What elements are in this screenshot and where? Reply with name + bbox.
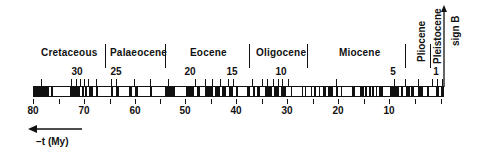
epoch-label: Cretaceous	[41, 47, 97, 58]
normal-polarity-block	[165, 87, 175, 96]
top-tick	[267, 79, 268, 86]
epoch-separator	[249, 44, 250, 68]
top-tick	[205, 79, 206, 86]
epoch-separator	[307, 44, 308, 68]
top-tick	[96, 79, 97, 86]
top-tick	[76, 79, 77, 86]
normal-polarity-block	[205, 87, 213, 96]
normal-polarity-block	[129, 87, 132, 96]
normal-polarity-block	[436, 87, 439, 96]
normal-polarity-block	[85, 87, 87, 96]
top-tick	[220, 79, 221, 86]
top-tick	[71, 79, 72, 86]
axis-tick	[59, 99, 60, 104]
normal-polarity-block	[427, 87, 429, 96]
chron-number: 5	[390, 66, 396, 77]
normal-polarity-block	[406, 87, 410, 96]
chron-number: 1	[433, 66, 439, 77]
normal-polarity-block	[186, 87, 194, 96]
axis-tick	[415, 99, 416, 104]
epoch-separator	[405, 44, 406, 68]
top-tick	[41, 79, 42, 86]
axis-tick	[110, 99, 111, 104]
chron-number: 20	[184, 66, 195, 77]
axis-tick	[313, 99, 314, 104]
normal-polarity-block	[379, 87, 383, 96]
axis-tick	[364, 99, 365, 104]
axis-label: 10	[383, 105, 394, 116]
normal-polarity-block	[82, 87, 84, 96]
normal-polarity-block	[197, 87, 200, 96]
normal-polarity-block	[305, 87, 306, 96]
normal-polarity-block	[360, 87, 364, 96]
axis-tick	[160, 99, 161, 104]
normal-polarity-block	[89, 87, 93, 96]
axis-tick	[262, 99, 263, 104]
top-tick	[134, 79, 135, 86]
epoch-label: Eocene	[190, 47, 227, 58]
chron-number: 10	[275, 66, 286, 77]
normal-polarity-block	[323, 87, 326, 96]
top-tick	[84, 79, 85, 86]
top-tick	[262, 79, 263, 86]
normal-polarity-block	[352, 87, 355, 96]
top-tick	[228, 79, 229, 86]
normal-polarity-block	[111, 87, 113, 96]
axis-label: 70	[78, 105, 89, 116]
top-tick	[233, 79, 234, 86]
normal-polarity-block	[372, 87, 374, 96]
normal-polarity-block	[229, 87, 233, 96]
axis-label: 40	[230, 105, 241, 116]
normal-polarity-block	[116, 87, 119, 96]
axis-label: 80	[27, 105, 38, 116]
top-tick	[212, 79, 213, 86]
top-tick	[111, 79, 112, 86]
axis-label: 60	[129, 105, 140, 116]
chron-number: 30	[71, 66, 82, 77]
normal-polarity-block	[418, 87, 423, 96]
normal-polarity-block	[390, 87, 399, 96]
top-tick	[116, 79, 117, 86]
chron-number: 15	[226, 66, 237, 77]
chron-number: 25	[110, 66, 121, 77]
top-tick	[432, 79, 433, 86]
axis-tick	[236, 99, 237, 104]
top-tick	[394, 79, 395, 86]
normal-polarity-block	[281, 87, 286, 96]
epoch-label: Miocene	[339, 47, 380, 58]
axis-label: 30	[281, 105, 292, 116]
epoch-label-vertical: Pliocene	[416, 21, 427, 62]
axis-tick	[84, 99, 85, 104]
normal-polarity-block	[215, 87, 220, 96]
axis-tick	[33, 99, 34, 104]
top-tick	[282, 79, 283, 86]
epoch-label: Palaeocene	[110, 47, 167, 58]
normal-polarity-block	[311, 87, 312, 96]
magnetic-polarity-timescale: CretaceousPalaeoceneEoceneOligoceneMioce…	[0, 0, 484, 152]
normal-polarity-block	[369, 87, 371, 96]
normal-polarity-block	[150, 87, 152, 96]
normal-polarity-block	[70, 87, 80, 96]
top-tick	[288, 79, 289, 86]
normal-polarity-block	[96, 87, 98, 96]
top-tick	[80, 79, 81, 86]
axis-tick	[211, 99, 212, 104]
normal-polarity-block	[336, 87, 338, 96]
normal-polarity-block	[222, 87, 226, 96]
axis-tick	[287, 99, 288, 104]
normal-polarity-block	[51, 87, 53, 96]
normal-polarity-block	[291, 87, 292, 96]
top-tick	[336, 79, 337, 86]
polarity-bar	[33, 86, 444, 97]
normal-polarity-block	[34, 87, 49, 96]
axis-tick	[441, 99, 442, 104]
normal-polarity-block	[365, 87, 367, 96]
normal-polarity-block	[247, 87, 250, 96]
axis-tick	[389, 99, 390, 104]
top-tick	[150, 79, 151, 86]
top-tick	[273, 79, 274, 86]
time-axis-label: −t (My)	[36, 136, 69, 147]
axis-tick	[185, 99, 186, 104]
normal-polarity-block	[314, 87, 316, 96]
top-tick	[405, 79, 406, 86]
